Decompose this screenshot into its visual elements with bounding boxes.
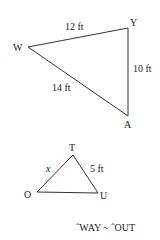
similar-triangles-diagram: W Y A 12 ft 10 ft 14 ft T O U x 5 ft ˆWA… [0,0,160,240]
vertex-label-u: U [100,190,108,201]
side-label-wa: 14 ft [52,82,71,93]
triangle-out [37,155,98,193]
vertex-label-y: Y [130,17,137,28]
side-label-ya: 10 ft [133,63,152,74]
vertex-label-t: T [69,142,75,153]
vertex-label-w: W [13,42,23,53]
vertex-label-a: A [124,119,132,130]
side-label-tu: 5 ft [90,163,104,174]
similarity-statement: ˆWAY ~ ˆOUT [76,222,135,233]
triangle-way [28,28,128,116]
side-label-wy: 12 ft [65,21,84,32]
vertex-label-o: O [24,189,31,200]
side-label-ot: x [45,163,51,174]
